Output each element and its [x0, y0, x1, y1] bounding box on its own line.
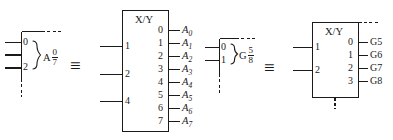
xy-left-output-pin-0: 0 [158, 25, 163, 35]
xy-right-output-pin-0: 0 [348, 37, 353, 47]
xy-left-output-name-7: A7 [182, 116, 192, 127]
xy-right-output-name-3: G8 [370, 76, 382, 86]
compact-a-range-denominator: 7 [52, 57, 59, 67]
xy-left-output-name-5: A5 [182, 90, 192, 101]
xy-box-left-title: X/Y [135, 15, 153, 26]
xy-right-output-pin-1: 1 [348, 50, 353, 60]
xy-left-output-pin-3: 3 [158, 64, 163, 74]
xy-right-output-pin-2: 2 [348, 63, 353, 73]
xy-left-input-label-4: 4 [125, 96, 130, 106]
compact-a-qualifier-letter: A [43, 53, 51, 64]
xy-left-output-name-3: A3 [182, 64, 192, 75]
compact-g-qualifier-letter: G [239, 51, 247, 62]
xy-left-output-name-6-sub: 6 [188, 107, 192, 116]
compact-g-brace [231, 44, 238, 64]
compact-a-qualifier: A 0 7 [43, 48, 58, 68]
xy-right-output-pin-3: 3 [348, 76, 353, 86]
compact-a-range-numerator: 0 [52, 48, 59, 57]
xy-left-input-label-2: 2 [125, 69, 130, 79]
xy-right-input-label-1: 1 [315, 42, 320, 52]
xy-left-output-name-5-sub: 5 [188, 94, 192, 103]
xy-right-output-name-1: G6 [370, 50, 382, 60]
xy-left-input-label-1: 1 [125, 41, 130, 51]
equivalence-symbol-2: ≡ [264, 58, 275, 77]
xy-box-right-title: X/Y [325, 27, 343, 38]
compact-g-pin-label-0: 0 [221, 42, 226, 52]
xy-left-output-name-1-sub: 1 [188, 42, 192, 51]
diagram-lines [0, 0, 393, 140]
compact-g-range-fraction: 5 8 [248, 46, 255, 66]
xy-left-output-name-4: A4 [182, 77, 192, 88]
xy-left-output-name-2: A2 [182, 51, 192, 62]
xy-left-output-pin-1: 1 [158, 38, 163, 48]
xy-left-output-name-4-sub: 4 [188, 81, 192, 90]
xy-left-output-pin-2: 2 [158, 51, 163, 61]
xy-left-output-name-7-sub: 7 [188, 120, 192, 129]
xy-right-output-name-0: G5 [370, 37, 382, 47]
compact-g-qualifier: G 5 8 [239, 46, 254, 66]
xy-right-output-name-2: G7 [370, 63, 382, 73]
compact-a-pin-label-0: 0 [23, 37, 28, 47]
compact-g-range-denominator: 8 [248, 55, 255, 65]
compact-a-brace [33, 41, 41, 69]
compact-g-range-numerator: 5 [248, 46, 255, 55]
equivalence-symbol-1: ≡ [70, 56, 81, 75]
xy-left-output-name-1: A1 [182, 38, 192, 49]
xy-left-output-pin-6: 6 [158, 103, 163, 113]
logic-symbol-figure: 0 2 A 0 7 ≡ X/Y 1 2 4 0 1 2 3 4 5 6 7 A0… [0, 0, 393, 140]
xy-left-output-pin-4: 4 [158, 77, 163, 87]
xy-left-output-name-0: A0 [182, 25, 192, 36]
xy-left-output-name-3-sub: 3 [188, 68, 192, 77]
xy-right-input-label-2: 2 [315, 65, 320, 75]
compact-g-pin-label-1: 1 [221, 55, 226, 65]
xy-left-output-pin-5: 5 [158, 90, 163, 100]
compact-a-range-fraction: 0 7 [52, 48, 59, 68]
compact-a-pin-label-2: 2 [23, 62, 28, 72]
xy-left-output-pin-7: 7 [158, 116, 163, 126]
xy-left-output-name-6: A6 [182, 103, 192, 114]
xy-left-output-name-2-sub: 2 [188, 55, 192, 64]
xy-left-output-name-0-sub: 0 [188, 29, 192, 38]
